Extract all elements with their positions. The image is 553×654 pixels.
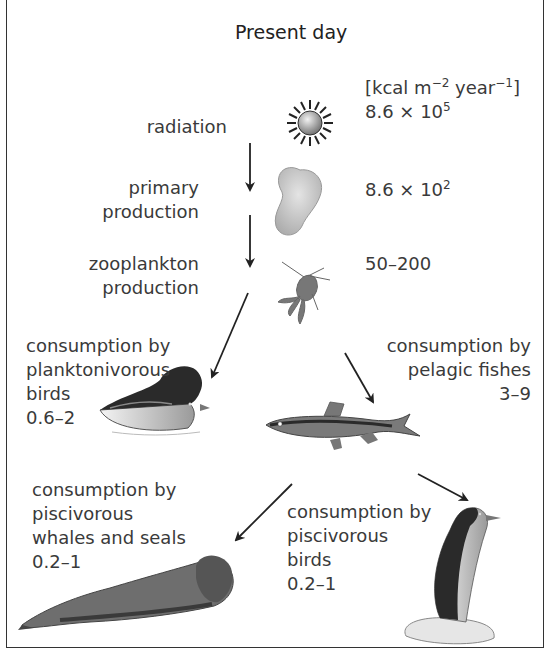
label-primary-line1: primary — [129, 176, 199, 200]
guillemot-icon — [405, 508, 501, 644]
label-planktonivorous-line3: birds — [26, 382, 70, 406]
sun-icon — [287, 100, 333, 146]
label-pelagic-line2: pelagic fishes — [408, 358, 531, 382]
label-piscivorous-birds-line3: birds — [287, 548, 331, 572]
label-pelagic-line1: consumption by — [387, 334, 531, 358]
label-radiation: radiation — [147, 115, 227, 139]
label-planktonivorous-line2: planktonivorous — [26, 358, 170, 382]
label-zooplankton-line2: production — [102, 276, 199, 300]
label-whales-line1: consumption by — [32, 478, 176, 502]
value-whales: 0.2–1 — [32, 550, 81, 574]
copepod-icon — [278, 262, 330, 324]
arrow-zooplankton-to-fishes — [345, 353, 373, 402]
value-zooplankton: 50–200 — [365, 252, 431, 276]
value-piscivorous-birds: 0.2–1 — [287, 572, 336, 596]
arrow-fish-to-seals — [236, 484, 292, 540]
arrow-fish-to-birds — [418, 474, 467, 500]
label-piscivorous-birds-line1: consumption by — [287, 500, 431, 524]
label-whales-line2: piscivorous — [32, 502, 133, 526]
label-zooplankton-line1: zooplankton — [89, 252, 199, 276]
value-primary: 8.6 × 102 — [365, 178, 451, 202]
value-pelagic: 3–9 — [499, 382, 531, 406]
units-label: [kcal m−2 year−1] — [365, 76, 520, 100]
label-primary-line2: production — [102, 200, 199, 224]
label-whales-line3: whales and seals — [32, 526, 186, 550]
value-planktonivorous: 0.6–2 — [26, 406, 75, 430]
label-piscivorous-birds-line2: piscivorous — [287, 524, 388, 548]
value-radiation: 8.6 × 105 — [365, 100, 451, 124]
arrow-zooplankton-to-birds — [212, 293, 248, 377]
diagram-title: Present day — [235, 20, 347, 44]
label-planktonivorous-line1: consumption by — [26, 334, 170, 358]
phytoplankton-icon — [275, 168, 321, 235]
fish-icon — [266, 402, 420, 450]
